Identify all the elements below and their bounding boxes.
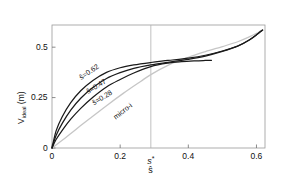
y-tick-label: 0.25: [31, 93, 48, 102]
x-tick-label: 0.6: [250, 152, 262, 161]
x-tick-label: 0: [50, 152, 55, 161]
x-tick-label: 0.2: [114, 152, 126, 161]
figure: Videal (m) ŝ 00.20.40.600.250.5s* ŝ=0.62…: [0, 0, 281, 178]
y-axis-label-unit: (m): [16, 91, 26, 106]
x-tick-label-s-star: s*: [147, 151, 154, 167]
x-tick-label: 0.4: [182, 152, 194, 161]
y-axis-label-subscript: ideal: [21, 106, 27, 118]
x-axis-label: ŝ: [148, 166, 153, 175]
s-star-asterisk: *: [152, 155, 155, 162]
y-axis-label-main: V: [16, 118, 26, 124]
y-axis-label: Videal (m): [16, 91, 26, 124]
y-tick-label: 0.5: [36, 43, 48, 52]
y-tick-label: 0: [43, 144, 48, 153]
